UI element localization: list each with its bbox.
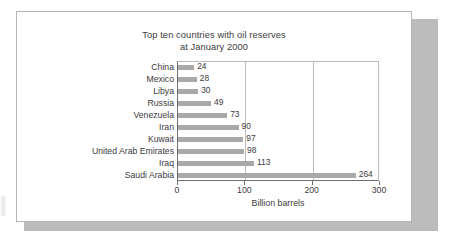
category-label: Mexico [146,73,174,85]
bar [178,173,356,178]
bar-row: 98 [178,146,378,158]
category-axis-labels: ChinaMexicoLibyaRussiaVenezuelaIranKuwai… [35,61,174,181]
category-label: Iraq [159,157,174,169]
category-label: Kuwait [148,133,174,145]
x-tick-label-300: 300 [372,184,387,196]
bar-row: 90 [178,122,378,134]
category-label: Venezuela [133,109,174,121]
chart-title-line-1: Top ten countries with oil reserves [142,30,286,40]
x-tick-label-0: 0 [175,184,180,196]
page-edge-artifact [0,196,6,216]
bar-value-label: 24 [197,61,206,73]
x-axis-title: Billion barrels [177,198,379,208]
bar [178,149,244,154]
bar [178,161,254,166]
bar-value-label: 90 [242,121,251,133]
bar [178,113,227,118]
bar-value-label: 98 [247,145,256,157]
category-label: Russia [147,97,174,109]
bar-value-label: 264 [359,169,373,181]
category-label: Iran [159,121,174,133]
bar-value-label: 113 [257,157,270,169]
category-label: China [151,61,174,73]
bar [178,125,239,130]
bar-value-label: 73 [230,109,239,121]
plot-area: 2428304973909798113264 [177,61,379,181]
chart-title: Top ten countries with oil reserves at J… [17,29,411,53]
category-label: Libya [153,85,174,97]
bar-row: 28 [178,74,378,86]
bar-value-label: 30 [201,85,210,97]
bar-row: 24 [178,62,378,74]
x-tick-label-200: 200 [304,184,319,196]
bar-value-label: 97 [246,133,255,145]
bar [178,101,211,106]
x-axis-tick-labels: 0100200300 [177,184,379,196]
bar-row: 49 [178,98,378,110]
chart-title-line-2: at January 2000 [17,41,411,53]
bar-value-label: 49 [214,97,223,109]
x-tick-label-100: 100 [237,184,252,196]
bar-row: 97 [178,134,378,146]
page-canvas: Top ten countries with oil reserves at J… [0,0,452,247]
bar-row: 113 [178,158,378,170]
bar [178,65,194,70]
chart-card: Top ten countries with oil reserves at J… [16,11,412,222]
category-label: Saudi Arabia [125,169,174,181]
bar-row: 73 [178,110,378,122]
bar [178,89,198,94]
bar-value-label: 28 [200,73,209,85]
category-label: United Arab Emirates [92,145,174,157]
bar [178,77,197,82]
bar [178,137,243,142]
bar-rows: 2428304973909798113264 [178,62,378,180]
bar-row: 30 [178,86,378,98]
